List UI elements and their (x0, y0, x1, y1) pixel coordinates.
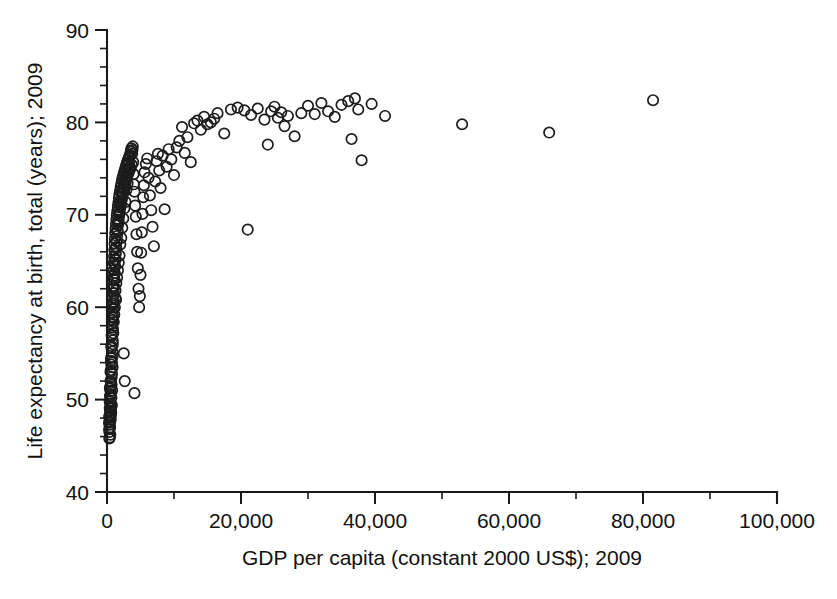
data-point (134, 302, 144, 312)
data-point (310, 109, 320, 119)
data-point (366, 99, 376, 109)
y-tick-label: 60 (66, 296, 89, 319)
data-point (159, 204, 169, 214)
data-point (232, 102, 242, 112)
data-point (146, 205, 156, 215)
data-point (544, 127, 554, 137)
data-point (226, 104, 236, 114)
data-point (149, 241, 159, 251)
x-tick-label: 80,000 (611, 509, 675, 532)
data-point (279, 121, 289, 131)
plot-canvas: 405060708090 020,00040,00060,00080,00010… (0, 0, 837, 599)
data-point (457, 119, 467, 129)
data-point (133, 263, 143, 273)
y-tick-label: 40 (66, 481, 89, 504)
x-axis-title: GDP per capita (constant 2000 US$); 2009 (242, 546, 642, 569)
y-tick-label: 90 (66, 19, 89, 42)
data-point (155, 183, 165, 193)
data-points-layer (104, 93, 658, 443)
data-point (129, 388, 139, 398)
data-point (350, 93, 360, 103)
data-point (119, 348, 129, 358)
x-axis-ticks (107, 492, 777, 504)
data-point (330, 112, 340, 122)
data-point (120, 376, 130, 386)
x-tick-label: 20,000 (209, 509, 273, 532)
x-tick-label: 0 (101, 509, 113, 532)
data-point (131, 211, 141, 221)
data-point (177, 122, 187, 132)
y-axis-tick-labels: 405060708090 (66, 19, 89, 504)
data-point (289, 131, 299, 141)
data-point (135, 270, 145, 280)
data-point (180, 148, 190, 158)
y-tick-label: 50 (66, 388, 89, 411)
x-tick-label: 100,000 (739, 509, 815, 532)
data-point (135, 291, 145, 301)
data-point (147, 222, 157, 232)
data-point (323, 106, 333, 116)
data-point (353, 104, 363, 114)
data-point (243, 224, 253, 234)
x-tick-label: 60,000 (477, 509, 541, 532)
axis-lines (107, 30, 777, 503)
data-point (186, 157, 196, 167)
scatter-plot-figure: 405060708090 020,00040,00060,00080,00010… (0, 0, 837, 599)
y-tick-label: 80 (66, 111, 89, 134)
data-point (169, 170, 179, 180)
data-point (380, 111, 390, 121)
data-point (346, 134, 356, 144)
x-tick-label: 40,000 (343, 509, 407, 532)
y-axis-title: Life expectancy at birth, total (years);… (23, 63, 46, 460)
data-point (263, 139, 273, 149)
x-axis-tick-labels: 020,00040,00060,00080,000100,000 (101, 509, 815, 532)
data-point (253, 103, 263, 113)
data-point (648, 95, 658, 105)
data-point (145, 190, 155, 200)
y-tick-label: 70 (66, 203, 89, 226)
data-point (189, 118, 199, 128)
data-point (356, 155, 366, 165)
data-point (138, 192, 148, 202)
data-point (196, 125, 206, 135)
data-point (219, 128, 229, 138)
